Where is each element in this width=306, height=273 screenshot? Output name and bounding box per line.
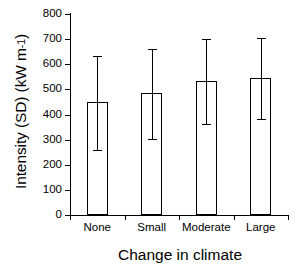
y-axis-tick (65, 140, 70, 141)
y-axis-tick-label: 800 (22, 8, 62, 20)
y-axis-tick-label: 500 (22, 83, 62, 95)
y-axis-tick-label: 700 (22, 33, 62, 45)
error-bar-cap-lower-small (148, 139, 157, 140)
x-axis-tick (70, 216, 71, 220)
x-axis-tick-label-large: Large (226, 222, 296, 234)
error-bar-cap-upper-large (257, 38, 266, 39)
error-bar-cap-upper-moderate (202, 39, 211, 40)
y-axis-tick-label: 600 (22, 58, 62, 70)
y-axis-tick (65, 165, 70, 166)
x-axis-tick (179, 216, 180, 220)
error-bar-stem-moderate (206, 39, 207, 124)
error-bar-cap-upper-small (148, 49, 157, 50)
plot-area (70, 14, 288, 215)
error-bar-stem-small (152, 49, 153, 139)
y-axis-tick (65, 39, 70, 40)
y-axis-tick (65, 89, 70, 90)
bar-chart: Intensity (SD) (kW m-1) 0100200300400500… (0, 0, 306, 273)
error-bar-stem-large (261, 38, 262, 119)
x-axis-tick (234, 216, 235, 220)
y-axis-tick-label: 300 (22, 134, 62, 146)
y-axis-tick-label: 200 (22, 159, 62, 171)
error-bar-stem-none (97, 56, 98, 150)
y-axis-tick (65, 190, 70, 191)
y-axis-tick-label: 400 (22, 109, 62, 121)
error-bar-cap-upper-none (93, 56, 102, 57)
x-axis-tick (125, 216, 126, 220)
y-axis-tick (65, 14, 70, 15)
y-axis-tick-label: 100 (22, 184, 62, 196)
error-bar-cap-lower-large (257, 119, 266, 120)
y-axis-tick (65, 115, 70, 116)
y-axis-tick (65, 64, 70, 65)
x-axis-tick (288, 216, 289, 220)
x-axis-title: Change in climate (60, 246, 300, 264)
error-bar-cap-lower-moderate (202, 124, 211, 125)
error-bar-cap-lower-none (93, 150, 102, 151)
y-axis-tick-label: 0 (22, 209, 62, 221)
